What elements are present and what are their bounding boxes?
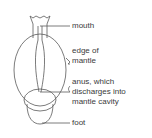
- label-line: edge of: [72, 46, 99, 56]
- label-anus: anus, which discharges into mantle cavit…: [72, 77, 126, 107]
- label-line: discharges into: [72, 87, 126, 97]
- leader-anus-bracket: [69, 86, 71, 92]
- label-line: mantle: [72, 56, 99, 66]
- leader-mantle: [66, 58, 70, 64]
- gut: [35, 26, 44, 92]
- label-line: mouth: [72, 21, 94, 31]
- label-line: mantle cavity: [72, 97, 126, 107]
- label-foot: foot: [72, 118, 85, 128]
- label-line: foot: [72, 118, 85, 128]
- foot-outline: [27, 104, 53, 124]
- label-edge-of-mantle: edge of mantle: [72, 46, 99, 66]
- mantle-outline: [14, 34, 66, 106]
- label-line: anus, which: [72, 77, 126, 87]
- head-tube: [30, 16, 50, 38]
- label-mouth: mouth: [72, 21, 94, 31]
